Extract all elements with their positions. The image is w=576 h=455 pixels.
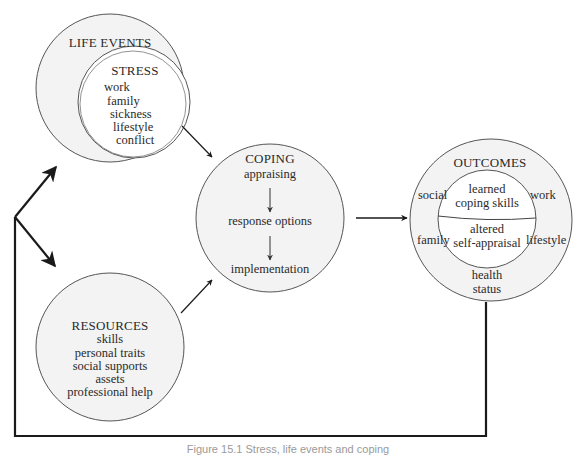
- resources-item-skills: skills: [50, 332, 170, 347]
- resources-item-professional-help: professional help: [50, 385, 170, 400]
- coping-step-appraising: appraising: [220, 167, 320, 182]
- outcomes-inner-coping-skills: coping skills: [437, 196, 537, 211]
- outcomes-inner-altered: altered: [437, 222, 537, 237]
- arrow-life-events-to-coping: [182, 126, 212, 157]
- coping-step-response-options: response options: [210, 214, 330, 229]
- feedback-arrow-to-life-events: [15, 167, 56, 217]
- stress-item-conflict: conflict: [116, 133, 154, 148]
- arrow-resources-to-coping: [181, 280, 212, 313]
- coping-step-implementation: implementation: [210, 262, 330, 277]
- resources-title: RESOURCES: [50, 318, 170, 333]
- outcomes-inner-self-appraisal: self-appraisal: [437, 236, 537, 251]
- life-events-title: LIFE EVENTS: [60, 35, 160, 50]
- outcomes-inner-learned: learned: [437, 182, 537, 197]
- figure-caption: Figure 15.1 Stress, life events and copi…: [0, 443, 576, 455]
- outcomes-title: OUTCOMES: [440, 155, 540, 170]
- feedback-arrow-to-resources: [15, 217, 55, 266]
- coping-title: COPING: [220, 151, 320, 166]
- outcomes-item-health: health: [437, 268, 537, 283]
- stress-item-work: work: [104, 80, 130, 95]
- stress-title: STRESS: [100, 63, 170, 78]
- outcomes-item-status: status: [437, 282, 537, 297]
